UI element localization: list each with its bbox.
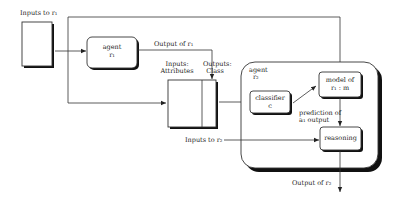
classifier-label: classifier c [250,95,290,110]
model-label: model of r₁ : m [319,77,361,92]
diagram-canvas [0,0,396,198]
outputs-class-line2: Class [203,68,227,75]
inputs-attributes-line2: Attributes [160,68,194,75]
agent-r1-label: agent r₁ [87,44,137,59]
prediction-label: prediction of a₁ output [299,110,341,124]
output-r1-label: Output of r₁ [154,41,193,48]
classifier-id: c [250,103,290,111]
outputs-class-label: Outputs: Class [203,61,227,75]
training-table [168,80,218,129]
input-r1-box [22,22,54,68]
prediction-line2: a₁ output [299,117,341,124]
inputs-r2-label: Inputs to r₂ [185,137,222,144]
agent-r2-label: agent r₂ [249,67,268,81]
agent-r2-id: r₂ [249,74,268,81]
output-r2-label: Output of r₂ [292,180,331,187]
reasoning-label: reasoning [320,135,361,143]
inputs-r1-label: Inputs to r₁ [20,10,57,17]
model-id: r₁ : m [319,85,361,93]
agent-r1-id: r₁ [87,52,137,60]
inputs-attributes-label: Inputs: Attributes [160,61,194,75]
